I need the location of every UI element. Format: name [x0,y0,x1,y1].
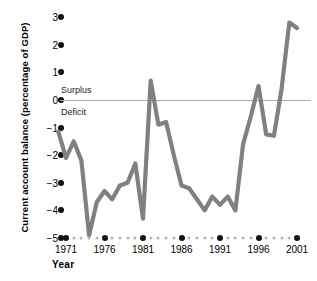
x-tick-dot-minor [265,237,268,240]
x-tick-label: 1971 [55,244,77,255]
x-tick-label: 2001 [286,244,308,255]
x-tick-dot-minor [280,237,283,240]
x-tick-dot-minor [203,237,206,240]
x-tick-dot-major [140,235,146,241]
x-tick-dot-minor [211,237,214,240]
x-tick-dot-minor [172,237,175,240]
x-tick-label: 1986 [170,244,192,255]
x-tick-dot-minor [249,237,252,240]
x-tick-dot-minor [149,237,152,240]
x-tick-dot-minor [80,237,83,240]
x-tick-dot-minor [234,237,237,240]
x-tick-dot-minor [118,237,121,240]
current-account-balance-line [58,23,297,236]
x-axis-title: Year [52,259,74,270]
x-tick-dot-minor [95,237,98,240]
x-tick-dot-minor [242,237,245,240]
x-tick-dot-minor [157,237,160,240]
x-tick-dot-major [63,235,69,241]
x-tick-dot-minor [195,237,198,240]
x-tick-label: 1991 [209,244,231,255]
x-tick-label: 1981 [132,244,154,255]
x-tick-dot-major [102,235,108,241]
x-tick-dot-minor [165,237,168,240]
x-tick-dot-minor [88,237,91,240]
x-tick-label: 1976 [93,244,115,255]
chart-figure: Current account balance (percentage of G… [0,0,317,281]
x-tick-dot-minor [226,237,229,240]
x-tick-label: 1996 [247,244,269,255]
x-tick-dot-minor [272,237,275,240]
x-tick-dot-minor [134,237,137,240]
x-tick-dot-major [179,235,185,241]
x-tick-dot-major [256,235,262,241]
x-tick-dot-minor [72,237,75,240]
x-tick-dot-major [294,235,300,241]
x-tick-dot-minor [126,237,129,240]
x-tick-dot-minor [188,237,191,240]
x-tick-dot-major [217,235,223,241]
x-tick-dot-minor [111,237,114,240]
x-tick-dot-minor [288,237,291,240]
